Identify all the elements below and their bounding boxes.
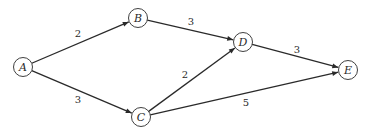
weight-C-E: 5 xyxy=(243,97,249,108)
node-D: D xyxy=(234,33,253,52)
edge-A-C xyxy=(32,71,132,113)
node-B: B xyxy=(129,9,148,28)
node-label: C xyxy=(137,111,146,124)
weight-A-C: 3 xyxy=(75,94,81,105)
weight-A-B: 2 xyxy=(75,28,81,39)
weight-B-D: 3 xyxy=(188,16,194,27)
edge-C-E xyxy=(150,72,338,115)
edge-C-D xyxy=(149,48,235,111)
node-label: D xyxy=(238,36,248,49)
node-label: A xyxy=(18,61,27,74)
arrow-line xyxy=(149,48,235,111)
node-label: E xyxy=(343,64,352,77)
node-C: C xyxy=(132,108,151,127)
node-A: A xyxy=(14,58,33,77)
weight-D-E: 3 xyxy=(294,44,300,55)
node-label: B xyxy=(133,12,142,25)
arrow-line xyxy=(32,71,132,113)
weight-C-D: 2 xyxy=(182,69,188,80)
arrow-line xyxy=(150,72,338,115)
graph-diagram: 233235 ABCDE xyxy=(0,0,369,135)
nodes: ABCDE xyxy=(14,9,358,127)
node-E: E xyxy=(339,61,358,80)
